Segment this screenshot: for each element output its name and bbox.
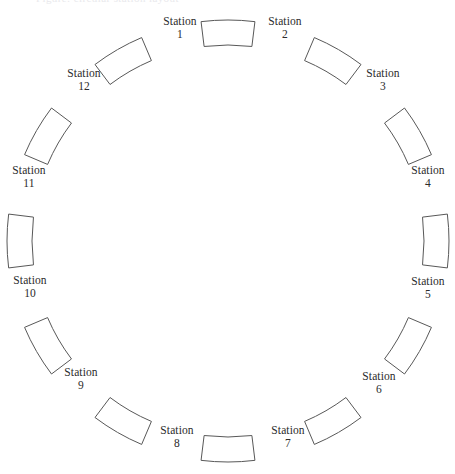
- station-label-number: 5: [411, 288, 444, 301]
- station-label-name: Station: [366, 67, 399, 80]
- station-label-4: Station4: [411, 164, 444, 190]
- station-label-name: Station: [362, 370, 395, 383]
- station-label-name: Station: [160, 424, 193, 437]
- station-label-name: Station: [411, 164, 444, 177]
- station-label-name: Station: [163, 15, 196, 28]
- station-label-number: 4: [411, 177, 444, 190]
- station-label-number: 2: [268, 28, 301, 41]
- station-block[interactable]: [95, 38, 151, 85]
- diagram-canvas: Figure: circular station layout Station1…: [0, 0, 455, 474]
- station-label-number: 7: [271, 437, 304, 450]
- station-label-11: Station11: [12, 164, 45, 190]
- station-label-3: Station3: [366, 67, 399, 93]
- station-label-2: Station2: [268, 15, 301, 41]
- station-label-number: 1: [163, 28, 196, 41]
- station-label-name: Station: [12, 164, 45, 177]
- station-block[interactable]: [423, 214, 449, 268]
- station-label-8: Station8: [160, 424, 193, 450]
- station-label-12: Station12: [67, 67, 100, 93]
- station-block[interactable]: [7, 214, 33, 268]
- station-label-1: Station1: [163, 15, 196, 41]
- station-block[interactable]: [201, 436, 255, 462]
- station-label-number: 11: [12, 177, 45, 190]
- station-block[interactable]: [25, 108, 72, 164]
- station-label-10: Station10: [13, 274, 46, 300]
- station-block[interactable]: [305, 38, 361, 85]
- station-block[interactable]: [385, 108, 432, 164]
- station-label-5: Station5: [411, 275, 444, 301]
- station-label-number: 6: [362, 383, 395, 396]
- station-block[interactable]: [201, 20, 255, 46]
- station-label-6: Station6: [362, 370, 395, 396]
- station-block[interactable]: [95, 398, 151, 445]
- station-label-number: 12: [67, 80, 100, 93]
- station-label-name: Station: [64, 366, 97, 379]
- station-label-name: Station: [271, 424, 304, 437]
- station-label-7: Station7: [271, 424, 304, 450]
- station-label-number: 9: [64, 379, 97, 392]
- station-label-name: Station: [13, 274, 46, 287]
- station-label-9: Station9: [64, 366, 97, 392]
- station-label-name: Station: [268, 15, 301, 28]
- station-label-name: Station: [67, 67, 100, 80]
- station-block[interactable]: [385, 318, 432, 374]
- station-label-name: Station: [411, 275, 444, 288]
- station-label-number: 10: [13, 287, 46, 300]
- station-block[interactable]: [305, 398, 361, 445]
- station-label-number: 8: [160, 437, 193, 450]
- station-label-number: 3: [366, 80, 399, 93]
